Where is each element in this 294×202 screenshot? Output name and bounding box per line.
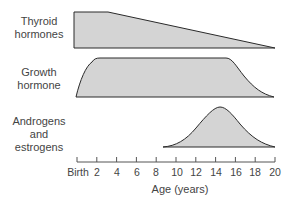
tick-label: 6 [134,166,140,178]
x-axis-tick-labels: Birth 2 4 6 8 10 12 14 16 18 20 [67,166,281,178]
hormone-chart: Birth 2 4 6 8 10 12 14 16 18 20 Age (yea… [0,0,294,202]
tick-label: 20 [269,166,281,178]
tick-label: Birth [67,166,89,178]
x-axis-title: Age (years) [152,183,209,195]
tick-label: 10 [171,166,183,178]
tick-label: 18 [249,166,261,178]
x-axis-ticks [77,157,275,162]
tick-label: 8 [153,166,159,178]
tick-label: 4 [114,166,120,178]
tick-label: 14 [210,166,222,178]
androgens-estrogens-area [163,107,275,147]
thyroid-hormones-area [74,12,275,48]
tick-label: 16 [230,166,242,178]
tick-label: 2 [94,166,100,178]
growth-hormone-area [76,58,274,97]
tick-label: 12 [190,166,202,178]
